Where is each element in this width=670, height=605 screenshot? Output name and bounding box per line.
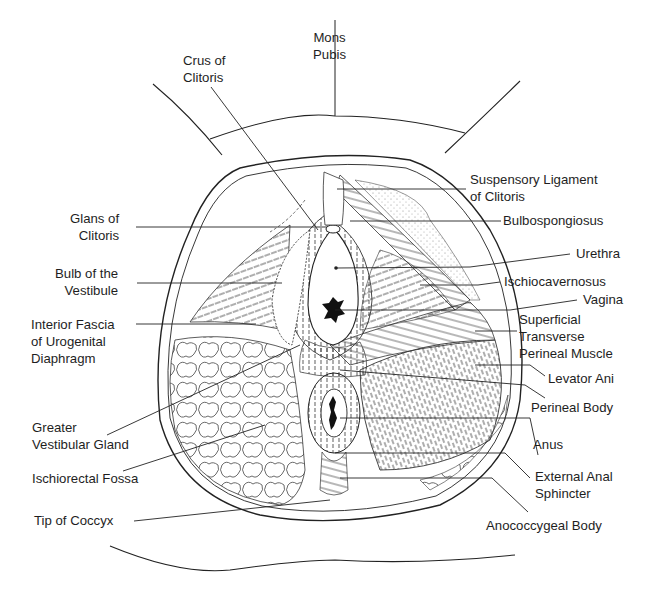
glans-clitoris [326,225,340,233]
label-bulbospongiosus: Bulbospongiosus [503,212,603,229]
label-interior-fascia: Interior Fasciaof UrogenitalDiaphragm [31,316,115,367]
label-bulb-of-vestibule: Bulb of theVestibule [55,265,118,299]
label-vagina: Vagina [583,291,623,308]
label-suspensory-ligament: Suspensory Ligamentof Clitoris [470,171,598,205]
label-anus: Anus [533,436,563,453]
label-perineal-body: Perineal Body [531,399,613,416]
label-ischiorectal-fossa: Ischiorectal Fossa [32,470,138,487]
label-greater-vestibular-gland: GreaterVestibular Gland [32,419,129,453]
thigh-contour-left [153,84,222,155]
label-levator-ani: Levator Ani [548,370,614,387]
ischiorectal-fossa-left [170,337,305,505]
label-tip-of-coccyx: Tip of Coccyx [34,512,113,529]
label-anococcygeal-body: Anococcygeal Body [486,517,602,534]
label-crus-of-clitoris: Crus ofClitoris [183,52,226,86]
buttock-contour [110,546,515,571]
label-ischiocavernosus: Ischiocavernosus [504,273,606,290]
label-mons-pubis: MonsPubis [313,29,346,63]
label-glans-of-clitoris: Glans ofClitoris [70,210,119,244]
label-external-anal-sphincter: External AnalSphincter [535,468,613,502]
thigh-contour-right [445,81,520,153]
label-urethra: Urethra [576,245,620,262]
label-superficial-transverse-perineal-muscle: SuperficialTransversePerineal Muscle [519,311,613,362]
